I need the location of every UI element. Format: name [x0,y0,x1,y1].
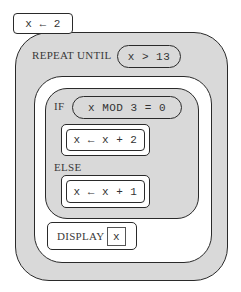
repeat-condition-text: x > 13 [128,51,171,63]
repeat-until-keyword: REPEAT UNTIL [32,49,111,61]
display-argument-box: x [107,227,126,246]
display-keyword: DISPLAY [57,230,105,242]
else-keyword: ELSE [54,161,81,173]
if-condition-pill: x MOD 3 = 0 [72,96,182,119]
if-keyword: IF [54,100,64,112]
then-statement-block: x ← x + 2 [66,129,145,151]
repeat-condition-pill: x > 13 [117,45,181,68]
init-assignment-block: x ← 2 [13,13,73,34]
if-condition-text: x MOD 3 = 0 [88,102,166,114]
else-statement-block: x ← x + 1 [66,180,145,203]
display-argument-text: x [113,231,120,243]
init-assignment-text: x ← 2 [25,18,61,30]
else-statement-text: x ← x + 1 [74,186,138,198]
then-statement-text: x ← x + 2 [74,134,138,146]
